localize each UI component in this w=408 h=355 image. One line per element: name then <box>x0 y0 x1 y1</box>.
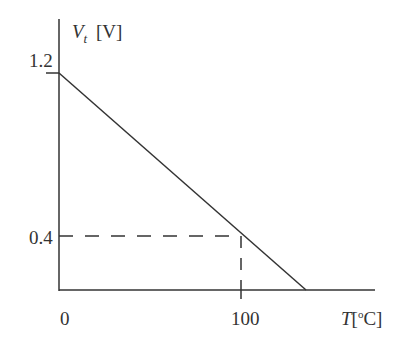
y-axis-sub: t <box>84 31 88 46</box>
chart-canvas <box>0 0 408 355</box>
x-axis-label: T[oC] <box>341 309 382 328</box>
x-axis-var: T <box>341 308 352 329</box>
vt-line <box>59 73 306 290</box>
y-tick-label-1-2: 1.2 <box>29 51 53 70</box>
y-axis-label: Vt [V] <box>72 22 122 45</box>
y-axis-unit: [V] <box>96 21 122 42</box>
y-axis-var: V <box>72 21 84 42</box>
x-tick-label-100: 100 <box>231 309 260 328</box>
x-axis-unit: C] <box>363 308 382 329</box>
x-tick-label-0: 0 <box>60 309 70 328</box>
y-tick-label-0-4: 0.4 <box>29 228 53 247</box>
